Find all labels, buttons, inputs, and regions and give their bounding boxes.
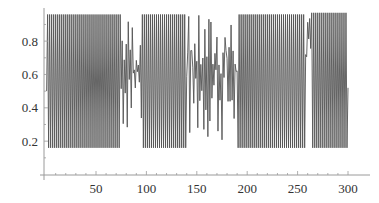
x-tick-label: 100 bbox=[137, 181, 157, 196]
data-series-line bbox=[47, 13, 348, 148]
x-tick-label: 200 bbox=[237, 181, 257, 196]
x-tick-label: 300 bbox=[338, 181, 358, 196]
y-tick-label: 0.6 bbox=[22, 67, 39, 82]
y-tick-label: 0.2 bbox=[22, 134, 38, 149]
series-polyline bbox=[47, 13, 348, 148]
line-chart: 50100150200250300 0.20.40.60.8 bbox=[0, 0, 379, 203]
x-tick-label: 250 bbox=[288, 181, 308, 196]
x-tick-label: 50 bbox=[90, 181, 103, 196]
y-tick-label: 0.4 bbox=[22, 100, 39, 115]
x-tick-label: 150 bbox=[187, 181, 207, 196]
y-tick-label: 0.8 bbox=[22, 34, 38, 49]
